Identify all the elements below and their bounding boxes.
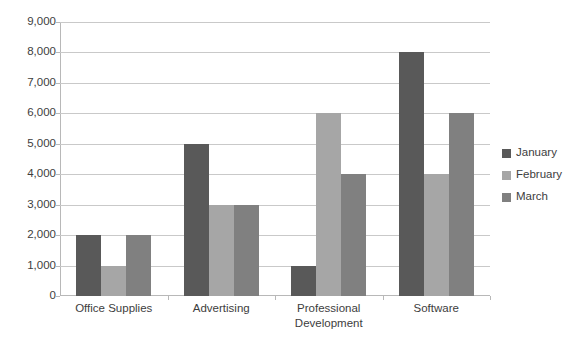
legend-item: March bbox=[502, 186, 587, 208]
y-axis-tick-label: 8,000 bbox=[0, 47, 56, 59]
bar bbox=[76, 235, 101, 296]
bar bbox=[184, 144, 209, 296]
x-axis-category-label: Advertising bbox=[168, 301, 276, 316]
bar bbox=[209, 205, 234, 296]
x-axis-category-label: Software bbox=[383, 301, 491, 316]
legend-label: February bbox=[516, 169, 562, 181]
x-axis-tick bbox=[383, 296, 384, 300]
y-axis-tick-label: 7,000 bbox=[0, 77, 56, 89]
legend-swatch-icon bbox=[502, 171, 511, 180]
bar bbox=[399, 52, 424, 296]
y-axis-tick-label: 1,000 bbox=[0, 260, 56, 272]
plot-area bbox=[60, 22, 490, 296]
y-axis-tick-label: 6,000 bbox=[0, 108, 56, 120]
legend-label: January bbox=[516, 147, 557, 159]
x-axis-category-label: Professional Development bbox=[275, 301, 383, 331]
bar bbox=[341, 174, 366, 296]
bar-chart: 9,0008,0007,0006,0005,0004,0003,0002,000… bbox=[0, 0, 587, 352]
bar bbox=[316, 113, 341, 296]
y-axis-tick-label: 0 bbox=[0, 290, 56, 302]
legend-label: March bbox=[516, 191, 548, 203]
x-axis-tick bbox=[490, 296, 491, 300]
bars-layer bbox=[60, 22, 490, 296]
bar bbox=[424, 174, 449, 296]
x-axis-tick bbox=[275, 296, 276, 300]
bar bbox=[291, 266, 316, 296]
y-axis-tick-labels: 9,0008,0007,0006,0005,0004,0003,0002,000… bbox=[0, 22, 56, 296]
y-axis-tick bbox=[56, 296, 60, 297]
legend-swatch-icon bbox=[502, 149, 511, 158]
bar bbox=[234, 205, 259, 296]
x-axis-category-labels: Office SuppliesAdvertisingProfessional D… bbox=[60, 301, 490, 347]
bar bbox=[449, 113, 474, 296]
y-axis-tick-label: 2,000 bbox=[0, 229, 56, 241]
y-axis-tick-label: 3,000 bbox=[0, 199, 56, 211]
bar bbox=[101, 266, 126, 296]
legend: JanuaryFebruaryMarch bbox=[502, 142, 587, 208]
x-axis-tick bbox=[168, 296, 169, 300]
x-axis-category-label: Office Supplies bbox=[60, 301, 168, 316]
bar bbox=[126, 235, 151, 296]
legend-item: February bbox=[502, 164, 587, 186]
y-axis-tick-label: 9,000 bbox=[0, 16, 56, 28]
y-axis-tick-label: 4,000 bbox=[0, 168, 56, 180]
legend-swatch-icon bbox=[502, 193, 511, 202]
legend-item: January bbox=[502, 142, 587, 164]
y-axis-tick-label: 5,000 bbox=[0, 138, 56, 150]
